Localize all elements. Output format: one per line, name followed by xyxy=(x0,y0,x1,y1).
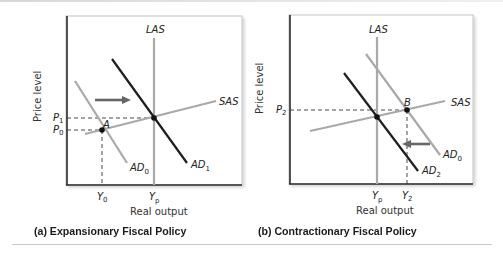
panel-a-yp-tick: Yp xyxy=(149,191,160,205)
panel-b-yp-tick: Yp xyxy=(372,190,383,204)
panel-a-caption: (a) Expansionary Fiscal Policy xyxy=(34,225,186,237)
panel-b-y2-tick: Y2 xyxy=(402,190,413,203)
panel-b-las-label: LAS xyxy=(369,24,388,35)
panel-a-las-label: LAS xyxy=(146,24,165,35)
panel-b-point-b-label: B xyxy=(404,97,411,108)
panel-b-point-b xyxy=(404,107,410,113)
bottom-rule xyxy=(12,244,492,245)
panel-a-p0-tick: P0 xyxy=(53,124,64,137)
panel-b-p2-tick: P2 xyxy=(276,104,287,117)
panel-a-sas-label: SAS xyxy=(219,96,239,107)
panel-a-y0-tick: Y0 xyxy=(97,191,108,204)
panel-b-y-axis-label: Price level xyxy=(254,63,265,114)
panel-a-y-axis-label: Price level xyxy=(32,71,43,122)
panel-b-caption: (b) Contractionary Fiscal Policy xyxy=(258,225,417,237)
panel-b-point-new-equilibrium xyxy=(374,114,380,120)
panel-a-point-new-equilibrium xyxy=(151,115,157,121)
panel-b-sas-label: SAS xyxy=(451,97,471,108)
panel-a-point-a-label: A xyxy=(102,119,110,130)
panel-a: LAS SAS AD0 AD1 A P1 P0 Y0 Yp Real outpu… xyxy=(32,16,242,217)
panel-b-x-axis-label: Real output xyxy=(356,205,414,216)
panel-a-x-axis-label: Real output xyxy=(130,206,188,217)
panel-b: LAS SAS AD0 AD2 B P2 Yp Y2 Real output P… xyxy=(254,15,473,216)
diagram-canvas: LAS SAS AD0 AD1 A P1 P0 Y0 Yp Real outpu… xyxy=(0,0,503,253)
